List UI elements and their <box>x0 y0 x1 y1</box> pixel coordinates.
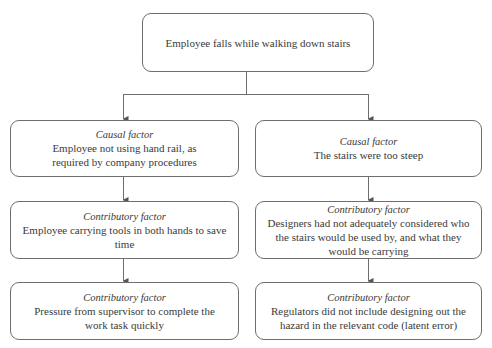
right-contributory-factor-1-node: Contributory factor Designers had not ad… <box>255 201 482 259</box>
left-contributory-factor-2-node: Contributory factor Pressure from superv… <box>10 282 239 340</box>
node-text: The stairs were too steep <box>314 148 423 162</box>
node-label: Contributory factor <box>327 203 410 216</box>
node-label: Contributory factor <box>83 291 166 304</box>
right-contributory-factor-2-node: Contributory factor Regulators did not i… <box>255 282 482 340</box>
node-text: Regulators did not include designing out… <box>262 304 475 332</box>
root-node: Employee falls while walking down stairs <box>142 13 374 72</box>
node-text: Pressure from supervisor to complete the… <box>17 304 232 332</box>
node-text: Employee not using hand rail, as require… <box>17 141 232 169</box>
node-text: Employee carrying tools in both hands to… <box>17 223 232 251</box>
node-text: Designers had not adequately considered … <box>262 216 475 258</box>
node-label: Causal factor <box>340 135 397 148</box>
node-label: Causal factor <box>96 128 153 141</box>
left-contributory-factor-1-node: Contributory factor Employee carrying to… <box>10 201 239 259</box>
node-label: Contributory factor <box>327 291 410 304</box>
left-causal-factor-node: Causal factor Employee not using hand ra… <box>10 120 239 177</box>
node-label: Contributory factor <box>83 210 166 223</box>
root-node-text: Employee falls while walking down stairs <box>166 36 351 50</box>
right-causal-factor-node: Causal factor The stairs were too steep <box>255 120 482 177</box>
